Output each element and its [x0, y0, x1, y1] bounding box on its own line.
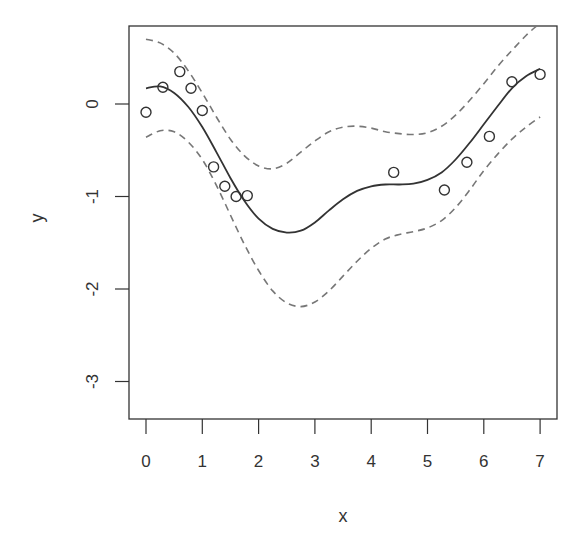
data-point [507, 77, 517, 87]
x-tick-label: 4 [366, 452, 375, 471]
data-point [197, 106, 207, 116]
x-tick-label: 2 [254, 452, 263, 471]
data-point [389, 167, 399, 177]
data-point [175, 67, 185, 77]
confidence-band-line [146, 117, 540, 307]
chart: 01234567 0-1-2-3 x y [0, 0, 578, 543]
confidence-bands [146, 25, 540, 306]
plot-frame [129, 26, 557, 419]
y-axis: 0-1-2-3 [83, 99, 129, 389]
data-points [141, 67, 545, 202]
x-axis: 01234567 [141, 419, 545, 471]
fit-curve [146, 69, 540, 233]
data-point [186, 83, 196, 93]
x-tick-label: 0 [141, 452, 150, 471]
y-tick-label: -2 [83, 281, 102, 296]
data-point [231, 192, 241, 202]
data-point [462, 157, 472, 167]
data-point [439, 185, 449, 195]
x-tick-label: 3 [310, 452, 319, 471]
x-tick-label: 1 [198, 452, 207, 471]
data-point [141, 107, 151, 117]
y-tick-label: -1 [83, 189, 102, 204]
y-tick-label: 0 [83, 99, 102, 108]
x-tick-label: 7 [535, 452, 544, 471]
data-point [484, 131, 494, 141]
y-axis-title: y [27, 214, 47, 223]
data-point [220, 181, 230, 191]
data-point [242, 191, 252, 201]
x-tick-label: 5 [423, 452, 432, 471]
fit-line [146, 69, 540, 233]
x-tick-label: 6 [479, 452, 488, 471]
data-point [535, 69, 545, 79]
y-tick-label: -3 [83, 374, 102, 389]
confidence-band-line [146, 25, 537, 168]
data-point [209, 162, 219, 172]
x-axis-title: x [339, 506, 348, 526]
